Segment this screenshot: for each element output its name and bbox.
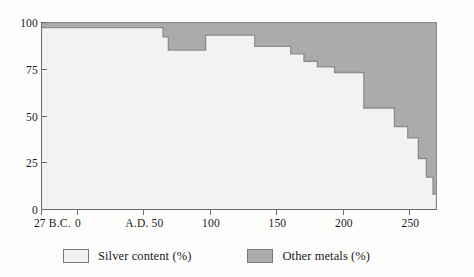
x-axis-tick-label: 150 (268, 217, 286, 229)
x-axis-tick-label: 0 (75, 217, 81, 229)
legend-item-silver-content: Silver content (%) (63, 249, 191, 264)
y-axis-tick-label: 75 (26, 64, 38, 76)
y-axis-tick-label: 0 (32, 204, 38, 216)
x-axis-tick: 200 (343, 210, 344, 215)
x-axis-tick-label: 100 (202, 217, 220, 229)
plot-area: 0255075100 (41, 22, 437, 210)
x-axis-tick-label: A.D. 50 (125, 217, 163, 229)
x-axis-tick-label: 250 (401, 217, 419, 229)
y-axis-tick: 100 (42, 22, 47, 23)
x-axis-tick: 0 (77, 210, 78, 215)
x-axis-tick: 150 (276, 210, 277, 215)
y-axis-tick: 75 (42, 69, 47, 70)
x-axis-tick-label: 27 B.C. (34, 217, 71, 229)
y-axis-tick-label: 50 (26, 110, 38, 122)
y-axis-tick-label: 100 (20, 17, 38, 29)
legend-swatch-silver-content (63, 249, 89, 263)
y-axis-tick-label: 25 (26, 157, 38, 169)
x-axis-tick: 250 (409, 210, 410, 215)
chart-page: 0255075100 27 B.C.0A.D. 50100150200250 S… (0, 0, 474, 277)
legend-label-silver-content: Silver content (%) (98, 249, 191, 264)
legend-label-other-metals: Other metals (%) (282, 249, 370, 264)
chart-legend: Silver content (%) Other metals (%) (41, 245, 436, 267)
legend-item-other-metals: Other metals (%) (247, 249, 370, 264)
x-axis-tick-label: 200 (335, 217, 353, 229)
y-axis-tick: 50 (42, 116, 47, 117)
stacked-step-area-chart (42, 22, 437, 209)
x-axis: 27 B.C.0A.D. 50100150200250 (41, 210, 436, 236)
x-axis-tick: A.D. 50 (143, 210, 144, 215)
legend-swatch-other-metals (247, 249, 273, 263)
y-axis-tick: 25 (42, 162, 47, 163)
x-axis-tick: 27 B.C. (41, 210, 42, 215)
x-axis-tick: 100 (210, 210, 211, 215)
